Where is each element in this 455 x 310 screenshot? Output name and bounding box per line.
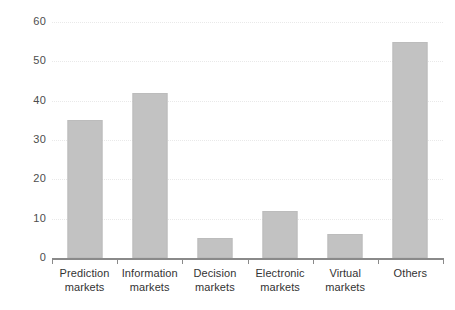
y-axis-tick-label: 40 (16, 95, 46, 106)
y-axis-tick-label: 60 (16, 16, 46, 27)
bar-group (52, 22, 443, 258)
plot-area (52, 22, 443, 258)
x-axis-category-label: Decisionmarkets (182, 266, 247, 294)
x-axis-category-label: Electronicmarkets (248, 266, 313, 294)
category-label-line-1: Electronic (255, 267, 304, 279)
bar-slot (182, 22, 247, 258)
x-axis-tick-mark (313, 258, 314, 264)
x-axis-category-label: Others (378, 266, 443, 280)
category-label-line-2: markets (248, 280, 313, 294)
category-label-line-1: Prediction (60, 267, 110, 279)
y-axis-tick-label: 0 (16, 252, 46, 263)
x-axis-category-label: Informationmarkets (117, 266, 182, 294)
bar[interactable] (393, 42, 428, 258)
x-axis-category-labels: PredictionmarketsInformationmarketsDecis… (52, 266, 443, 310)
x-axis-category-label: Virtualmarkets (313, 266, 378, 294)
category-label-line-2: markets (313, 280, 378, 294)
category-label-line-1: Information (122, 267, 178, 279)
bar-slot (117, 22, 182, 258)
bar-slot (52, 22, 117, 258)
bar[interactable] (132, 93, 167, 258)
y-axis-tick-label: 10 (16, 213, 46, 224)
x-axis-tick-mark (182, 258, 183, 264)
x-axis-tick-mark (248, 258, 249, 264)
x-axis-category-label: Predictionmarkets (52, 266, 117, 294)
x-axis-tick-mark (378, 258, 379, 264)
category-label-line-1: Virtual (329, 267, 361, 279)
bar-slot (248, 22, 313, 258)
y-axis-tick-label: 30 (16, 134, 46, 145)
bar-slot (313, 22, 378, 258)
x-axis-tick-mark (117, 258, 118, 264)
bar[interactable] (263, 211, 298, 258)
bar[interactable] (67, 120, 102, 258)
category-label-line-1: Others (394, 267, 428, 279)
x-axis-tick-mark (52, 258, 53, 264)
bar[interactable] (197, 238, 232, 258)
y-axis-tick-label: 20 (16, 173, 46, 184)
category-label-line-2: markets (117, 280, 182, 294)
bar-slot (378, 22, 443, 258)
bar-chart: 0102030405060 PredictionmarketsInformati… (0, 0, 455, 310)
bar[interactable] (328, 234, 363, 258)
category-label-line-1: Decision (193, 267, 236, 279)
category-label-line-2: markets (182, 280, 247, 294)
category-label-line-2: markets (52, 280, 117, 294)
x-axis-tick-mark (443, 258, 444, 264)
y-axis-tick-label: 50 (16, 55, 46, 66)
